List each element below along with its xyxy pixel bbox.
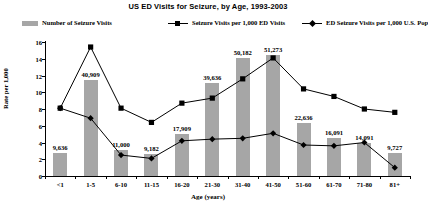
y-tick-label: 12 — [35, 72, 42, 79]
x-axis-title: Age (years) — [0, 193, 416, 201]
x-tick-mark — [75, 176, 76, 179]
x-tick-label: 6-10 — [115, 181, 127, 188]
bar-11-15 — [144, 154, 158, 176]
x-tick-mark — [45, 176, 46, 179]
x-tick-mark — [349, 176, 350, 179]
diamond-marker-line-icon — [302, 20, 322, 27]
chart-legend: Number of Seizure Visits Seizure Visits … — [0, 19, 416, 33]
x-tick-mark — [410, 176, 411, 179]
x-tick-mark — [228, 176, 229, 179]
x-tick-mark — [319, 176, 320, 179]
y-tick-label: 10 — [35, 89, 42, 96]
legend-item-ed-seizure-visits-per-1000-us-pop: ED Seizure Visits per 1,000 U.S. Pop — [302, 20, 428, 27]
y-tick-mark — [42, 92, 45, 93]
legend-label-diamond-series: ED Seizure Visits per 1,000 U.S. Pop — [326, 20, 428, 27]
legend-label-square-series: Seizure Visits per 1,000 ED Visits — [192, 20, 285, 27]
y-tick-mark — [42, 42, 45, 43]
y-tick-mark — [42, 126, 45, 127]
x-tick-label: 51-60 — [296, 181, 311, 188]
bar-value-label: 40,909 — [82, 71, 100, 78]
bar-value-label: 9,727 — [387, 144, 402, 151]
bar-51-60 — [297, 123, 311, 176]
legend-item-number-of-seizure-visits: Number of Seizure Visits — [22, 20, 112, 27]
bar-value-label: 50,182 — [234, 49, 252, 56]
bar-61-70 — [327, 138, 341, 176]
bar-value-label: 16,091 — [325, 129, 343, 136]
x-tick-label: 81+ — [390, 181, 400, 188]
x-tick-label: 41-50 — [265, 181, 280, 188]
bar-value-label: 14,091 — [355, 134, 373, 141]
bar-1-5 — [84, 80, 98, 176]
y-tick-mark — [42, 159, 45, 160]
bar-value-label: 39,636 — [203, 74, 221, 81]
chart-title: US ED Visits for Seizure, by Age, 1993-2… — [0, 2, 416, 11]
bar-31-40 — [236, 58, 250, 176]
bar-71-80 — [357, 143, 371, 176]
bar-16-20 — [175, 134, 189, 176]
y-tick-mark — [42, 109, 45, 110]
x-tick-label: 71-80 — [357, 181, 372, 188]
x-tick-mark — [380, 176, 381, 179]
y-tick-mark — [42, 76, 45, 77]
x-tick-label: 11-15 — [144, 181, 159, 188]
y-tick-mark — [42, 59, 45, 60]
bar-value-label: 9,636 — [53, 144, 68, 151]
x-tick-mark — [167, 176, 168, 179]
x-tick-mark — [258, 176, 259, 179]
x-tick-label: 61-70 — [326, 181, 341, 188]
y-tick-mark — [42, 143, 45, 144]
legend-label-bars: Number of Seizure Visits — [42, 20, 112, 27]
bar-6-10 — [114, 150, 128, 176]
x-tick-mark — [288, 176, 289, 179]
x-tick-mark — [197, 176, 198, 179]
square-marker-line-icon — [168, 20, 188, 27]
x-tick-mark — [136, 176, 137, 179]
bar-value-label: 51,273 — [264, 46, 282, 53]
y-tick-label: 16 — [35, 39, 42, 46]
x-tick-label: <1 — [57, 181, 64, 188]
bar-<1 — [53, 153, 67, 176]
x-tick-mark — [106, 176, 107, 179]
x-tick-label: 31-40 — [235, 181, 250, 188]
bar-21-30 — [205, 83, 219, 176]
plot-area: 0246810121416 9,63640,90911,0009,18217,9… — [45, 42, 410, 176]
x-tick-label: 21-30 — [205, 181, 220, 188]
bar-value-label: 22,636 — [294, 114, 312, 121]
y-axis-title: Rate per 1,000 — [2, 68, 9, 109]
x-tick-label: 16-20 — [174, 181, 189, 188]
x-tick-label: 1-5 — [86, 181, 95, 188]
bar-swatch-icon — [22, 21, 38, 26]
legend-item-seizure-visits-per-1000-ed-visits: Seizure Visits per 1,000 ED Visits — [168, 20, 285, 27]
bar-value-label: 9,182 — [144, 145, 159, 152]
bar-41-50 — [266, 55, 280, 176]
bar-value-label: 17,909 — [173, 125, 191, 132]
bar-81+ — [388, 153, 402, 176]
y-tick-label: 14 — [35, 55, 42, 62]
bar-value-label: 11,000 — [112, 141, 130, 148]
